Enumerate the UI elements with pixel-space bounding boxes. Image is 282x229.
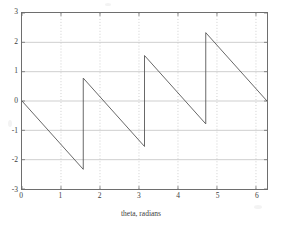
x-tick-label: 6 [255, 192, 259, 200]
x-tick-label: 3 [137, 192, 141, 200]
x-axis-tick-labels: 0123456 [0, 0, 282, 229]
scan-speck [254, 205, 262, 209]
scan-speck [8, 120, 12, 127]
x-tick-label: 5 [216, 192, 220, 200]
x-tick-label: 4 [176, 192, 180, 200]
x-tick-label: 1 [58, 192, 62, 200]
figure: -3-2-10123 0123456 theta, radians [0, 0, 282, 229]
x-tick-label: 2 [98, 192, 102, 200]
scan-speck [105, 3, 111, 6]
x-tick-label: 0 [19, 192, 23, 200]
x-axis-title: theta, radians [0, 209, 282, 218]
